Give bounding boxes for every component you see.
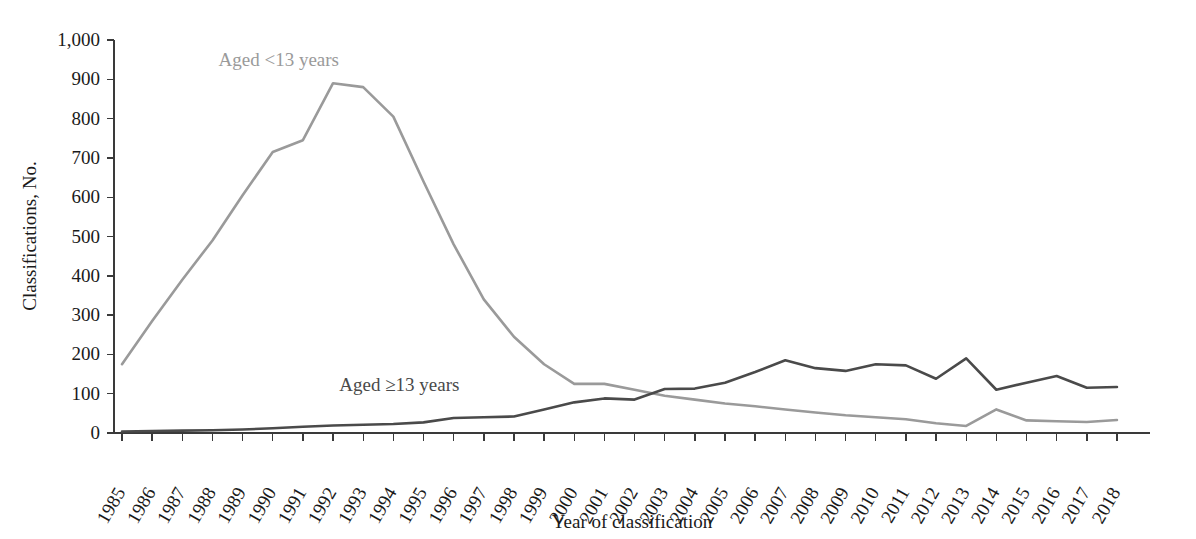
- x-tick-label: 1990: [243, 484, 280, 527]
- x-tick-label: 2016: [1027, 484, 1064, 527]
- x-tick-label: 1996: [424, 484, 461, 527]
- x-tick-label: 1999: [514, 484, 551, 527]
- x-tick-label: 1995: [394, 484, 431, 527]
- series-line-aged-under-13: [122, 83, 1117, 426]
- y-tick-label: 1,000: [57, 29, 100, 50]
- y-tick-label: 600: [72, 186, 101, 207]
- y-axis-ticks: [107, 40, 114, 433]
- y-tick-label: 400: [72, 265, 101, 286]
- y-tick-label: 800: [72, 108, 101, 129]
- y-tick-label: 500: [72, 226, 101, 247]
- x-tick-label: 1985: [92, 484, 129, 527]
- y-axis-title: Classifications, No.: [19, 161, 40, 310]
- series-label-aged-under-13: Aged <13 years: [219, 49, 339, 70]
- x-tick-label: 2009: [816, 484, 853, 527]
- chart-figure: 01002003004005006007008009001,000 198519…: [0, 0, 1196, 539]
- y-tick-label: 200: [72, 343, 101, 364]
- x-tick-label: 2008: [786, 484, 823, 527]
- x-tick-label: 2010: [846, 484, 883, 527]
- x-tick-label: 1998: [484, 484, 521, 527]
- x-tick-label: 1989: [213, 484, 250, 527]
- x-tick-label: 2012: [906, 484, 943, 527]
- x-tick-label: 1986: [122, 484, 159, 527]
- x-tick-label: 1994: [364, 483, 401, 527]
- x-tick-label: 1997: [454, 484, 491, 527]
- y-axis-tick-labels: 01002003004005006007008009001,000: [57, 29, 100, 443]
- series-inline-labels: Aged <13 yearsAged ≥13 years: [219, 49, 460, 395]
- series-label-aged-13-and-over: Aged ≥13 years: [339, 374, 459, 395]
- line-chart: 01002003004005006007008009001,000 198519…: [0, 0, 1196, 539]
- x-axis-title: Year of classification: [552, 511, 713, 532]
- x-tick-label: 2013: [936, 484, 973, 527]
- x-tick-label: 2007: [756, 484, 793, 527]
- y-tick-label: 100: [72, 383, 101, 404]
- y-tick-label: 0: [91, 422, 101, 443]
- data-series-group: [122, 83, 1117, 431]
- x-tick-label: 1987: [153, 484, 190, 527]
- x-tick-label: 2018: [1087, 484, 1124, 527]
- x-axis-ticks: [122, 433, 1117, 441]
- series-line-aged-13-and-over: [122, 358, 1117, 431]
- x-tick-label: 2015: [997, 484, 1034, 527]
- x-tick-label: 2014: [967, 483, 1004, 527]
- x-tick-label: 2006: [725, 484, 762, 527]
- x-tick-label: 2017: [1057, 484, 1094, 527]
- y-tick-label: 700: [72, 147, 101, 168]
- x-tick-label: 2011: [877, 484, 914, 527]
- x-tick-label: 1993: [333, 484, 370, 527]
- x-tick-label: 1991: [273, 484, 310, 527]
- y-tick-label: 900: [72, 68, 101, 89]
- x-tick-label: 1988: [183, 484, 220, 527]
- y-tick-label: 300: [72, 304, 101, 325]
- x-tick-label: 1992: [303, 484, 340, 527]
